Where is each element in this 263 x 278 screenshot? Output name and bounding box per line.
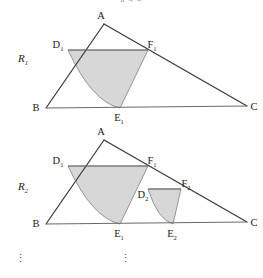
vertex-label-e1-r2: E1: [114, 228, 124, 241]
vertical-ellipsis-left: ⋮: [15, 253, 26, 264]
vertex-label-f1-r2: F1: [147, 155, 156, 168]
region-r2-2: [148, 189, 181, 224]
vertex-label-d2-r2: D2: [138, 189, 149, 202]
vertex-label-c-r2: C: [250, 217, 257, 228]
panel-label-r2: R2: [17, 180, 29, 194]
vertical-ellipsis-middle: ⋮: [120, 253, 131, 264]
figure-canvas: A B C D1 E1 F1 R1: [0, 0, 263, 278]
side-bc-r2: [46, 222, 247, 224]
vertex-label-e1-r1: E1: [114, 112, 124, 125]
panel-label-r1: R1: [17, 52, 28, 66]
vertex-label-d1-r2: D1: [53, 155, 64, 168]
vertex-label-b-r1: B: [32, 102, 39, 113]
side-bc-r1: [46, 106, 247, 108]
panel-r1: A B C D1 E1 F1 R1: [17, 10, 258, 125]
vertex-label-b-r2: B: [32, 218, 39, 229]
vertex-label-f2-r2: F2: [181, 178, 190, 191]
vertex-label-e2-r2: E2: [167, 228, 177, 241]
geometry-figure: n → ∞ A B C D1: [0, 0, 263, 278]
vertex-label-c-r1: C: [250, 101, 257, 112]
panel-r2: A B C D1 E1 F1 D2 E2 F2: [17, 126, 258, 241]
vertex-label-d1-r1: D1: [53, 39, 64, 52]
vertex-label-a-r1: A: [97, 10, 105, 21]
vertex-label-a-r2: A: [97, 126, 105, 137]
vertex-label-f1-r1: F1: [147, 39, 156, 52]
limit-note: n → ∞: [0, 0, 263, 5]
